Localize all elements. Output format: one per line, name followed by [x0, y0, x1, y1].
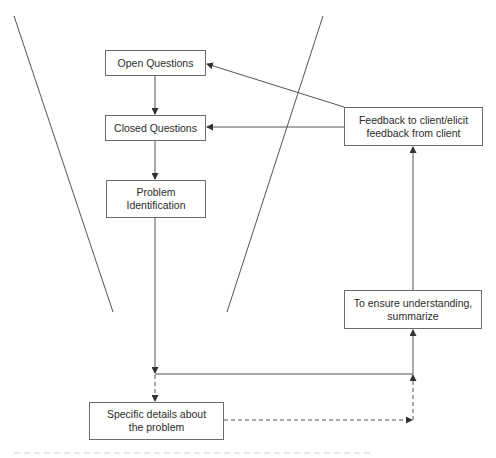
node-label: Open Questions	[118, 57, 194, 70]
arrow-feedback-to-open	[207, 64, 344, 107]
node-label: Closed Questions	[114, 122, 197, 135]
node-summarize: To ensure understanding, summarize	[344, 290, 482, 329]
node-label: To ensure understanding, summarize	[354, 297, 473, 323]
node-feedback: Feedback to client/elicit feedback from …	[344, 107, 483, 146]
flowchart-edges	[0, 0, 496, 458]
figure-caption-clipped	[14, 452, 374, 458]
node-label: Problem Identification	[127, 186, 186, 212]
funnel-right-line	[227, 16, 323, 312]
node-label: Feedback to client/elicit feedback from …	[359, 114, 468, 140]
node-open-questions: Open Questions	[105, 50, 206, 76]
funnel-left-line	[14, 16, 113, 312]
node-label: Specific details about the problem	[107, 408, 206, 434]
node-closed-questions: Closed Questions	[105, 115, 206, 141]
flowchart-canvas: Open Questions Closed Questions Problem …	[0, 0, 496, 458]
caption-ghost	[14, 452, 374, 454]
node-specific-details: Specific details about the problem	[89, 402, 224, 440]
node-problem-identification: Problem Identification	[106, 180, 206, 218]
